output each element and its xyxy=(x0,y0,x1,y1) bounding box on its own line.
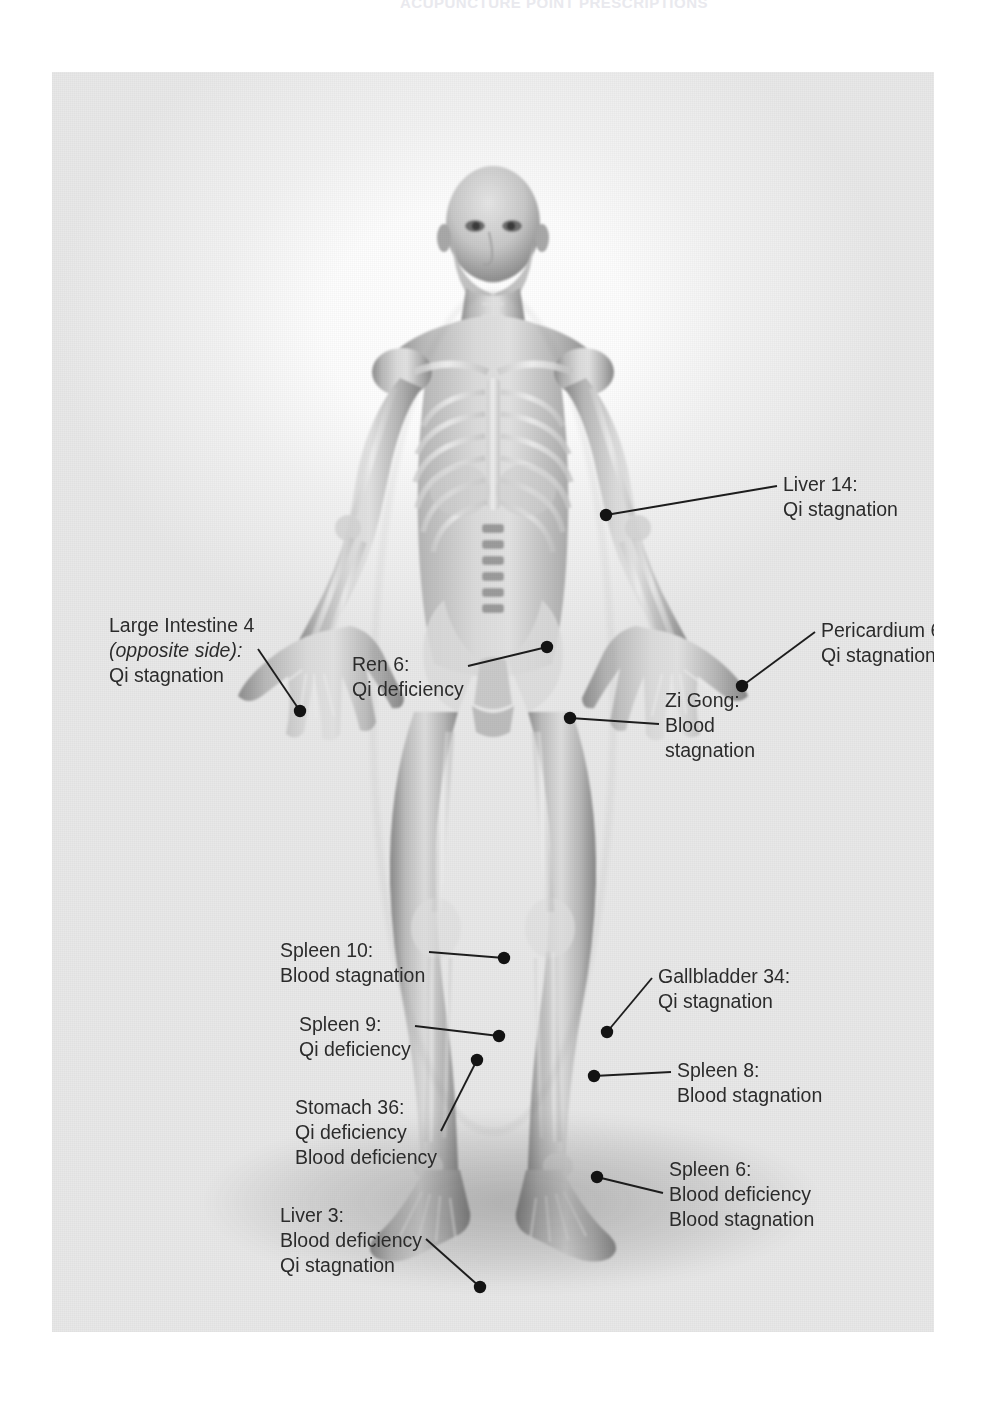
point-marker-spleen-6 xyxy=(591,1171,603,1183)
point-title-zi-gong: Zi Gong: xyxy=(665,688,755,713)
leader-line-spleen-6 xyxy=(597,1177,663,1193)
illustration-plate: Liver 14:Qi stagnationLarge Intestine 4(… xyxy=(52,72,934,1332)
leader-line-zi-gong xyxy=(570,718,659,724)
point-detail-liver-3-1: Qi stagnation xyxy=(280,1253,422,1278)
point-label-gallbladder-34: Gallbladder 34:Qi stagnation xyxy=(658,964,790,1014)
point-detail-spleen-6-0: Blood deficiency xyxy=(669,1182,814,1207)
point-label-spleen-9: Spleen 9:Qi deficiency xyxy=(299,1012,411,1062)
point-title-ren-6: Ren 6: xyxy=(352,652,464,677)
point-detail-zi-gong-0: Blood xyxy=(665,713,755,738)
point-detail-stomach-36-1: Blood deficiency xyxy=(295,1145,437,1170)
leader-line-liver-3 xyxy=(426,1239,480,1287)
point-title-spleen-8: Spleen 8: xyxy=(677,1058,822,1083)
point-label-spleen-10: Spleen 10:Blood stagnation xyxy=(280,938,425,988)
point-title-liver-14: Liver 14: xyxy=(783,472,898,497)
point-marker-gallbladder-34 xyxy=(601,1026,613,1038)
point-label-zi-gong: Zi Gong:Bloodstagnation xyxy=(665,688,755,763)
leader-line-pericardium-6 xyxy=(742,632,815,686)
leader-line-ren-6 xyxy=(468,647,547,666)
point-marker-ren-6 xyxy=(541,641,553,653)
point-label-large-intestine-4: Large Intestine 4(opposite side):Qi stag… xyxy=(109,613,254,688)
point-title-large-intestine-4: Large Intestine 4 xyxy=(109,613,254,638)
leader-line-gallbladder-34 xyxy=(607,978,652,1032)
leader-line-large-intestine-4 xyxy=(258,649,300,711)
point-label-liver-14: Liver 14:Qi stagnation xyxy=(783,472,898,522)
point-label-stomach-36: Stomach 36:Qi deficiencyBlood deficiency xyxy=(295,1095,437,1170)
point-label-spleen-8: Spleen 8:Blood stagnation xyxy=(677,1058,822,1108)
leader-line-spleen-8 xyxy=(594,1072,671,1076)
running-head: ACUPUNCTURE POINT PRESCRIPTIONS xyxy=(400,0,960,10)
point-detail-ren-6-0: Qi deficiency xyxy=(352,677,464,702)
point-marker-spleen-8 xyxy=(588,1070,600,1082)
point-title-liver-3: Liver 3: xyxy=(280,1203,422,1228)
leader-line-spleen-9 xyxy=(415,1026,499,1036)
leader-line-liver-14 xyxy=(606,486,777,515)
point-detail-stomach-36-0: Qi deficiency xyxy=(295,1120,437,1145)
point-marker-stomach-36 xyxy=(471,1054,483,1066)
point-title-spleen-9: Spleen 9: xyxy=(299,1012,411,1037)
point-title-gallbladder-34: Gallbladder 34: xyxy=(658,964,790,989)
point-detail-liver-3-0: Blood deficiency xyxy=(280,1228,422,1253)
point-detail-pericardium-6-0: Qi stagnation xyxy=(821,643,934,668)
leader-line-spleen-10 xyxy=(429,952,504,958)
point-label-spleen-6: Spleen 6:Blood deficiencyBlood stagnatio… xyxy=(669,1157,814,1232)
point-detail-spleen-9-0: Qi deficiency xyxy=(299,1037,411,1062)
point-title-spleen-6: Spleen 6: xyxy=(669,1157,814,1182)
leader-line-stomach-36 xyxy=(441,1060,477,1131)
point-label-ren-6: Ren 6:Qi deficiency xyxy=(352,652,464,702)
point-title-stomach-36: Stomach 36: xyxy=(295,1095,437,1120)
point-detail-large-intestine-4-0: Qi stagnation xyxy=(109,663,254,688)
point-title-spleen-10: Spleen 10: xyxy=(280,938,425,963)
point-marker-spleen-10 xyxy=(498,952,510,964)
point-detail-spleen-10-0: Blood stagnation xyxy=(280,963,425,988)
point-marker-spleen-9 xyxy=(493,1030,505,1042)
point-detail-liver-14-0: Qi stagnation xyxy=(783,497,898,522)
point-subtitle-large-intestine-4: (opposite side): xyxy=(109,638,254,663)
point-label-pericardium-6: Pericardium 6:Qi stagnation xyxy=(821,618,934,668)
point-title-pericardium-6: Pericardium 6: xyxy=(821,618,934,643)
point-detail-gallbladder-34-0: Qi stagnation xyxy=(658,989,790,1014)
point-marker-large-intestine-4 xyxy=(294,705,306,717)
point-detail-zi-gong-1: stagnation xyxy=(665,738,755,763)
point-detail-spleen-8-0: Blood stagnation xyxy=(677,1083,822,1108)
point-marker-liver-14 xyxy=(600,509,612,521)
point-label-liver-3: Liver 3:Blood deficiencyQi stagnation xyxy=(280,1203,422,1278)
leader-lines xyxy=(52,72,934,1332)
point-detail-spleen-6-1: Blood stagnation xyxy=(669,1207,814,1232)
point-marker-liver-3 xyxy=(474,1281,486,1293)
point-marker-zi-gong xyxy=(564,712,576,724)
